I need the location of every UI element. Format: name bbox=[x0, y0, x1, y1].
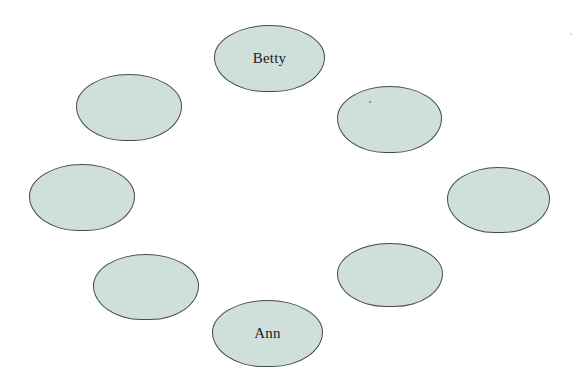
seat-upper-left bbox=[76, 74, 182, 141]
seating-diagram: Betty Ann bbox=[0, 0, 577, 383]
seat-right bbox=[447, 167, 550, 233]
scan-speck bbox=[369, 101, 371, 103]
seat-left bbox=[29, 164, 135, 231]
seat-label: Ann bbox=[254, 325, 280, 342]
seat-top: Betty bbox=[214, 25, 325, 92]
seat-lower-right bbox=[337, 243, 443, 307]
seat-lower-left bbox=[93, 254, 199, 320]
seat-label: Betty bbox=[253, 50, 287, 67]
scan-speck bbox=[570, 33, 572, 35]
seat-bottom: Ann bbox=[212, 300, 323, 367]
seat-upper-right bbox=[337, 86, 442, 153]
